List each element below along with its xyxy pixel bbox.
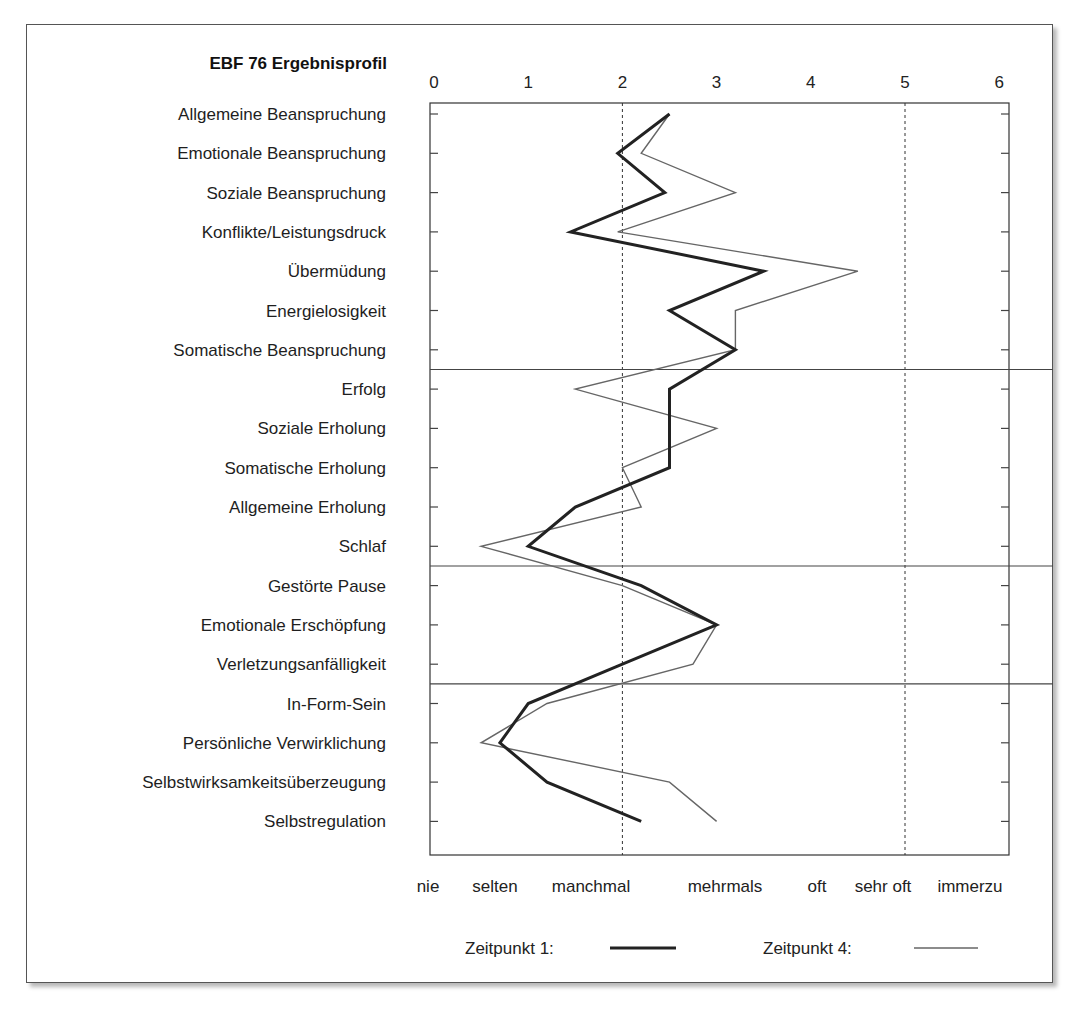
category-label: Selbstwirksamkeitsüberzeugung xyxy=(142,773,386,792)
legend-label: Zeitpunkt 4: xyxy=(763,939,852,958)
frequency-label: nie xyxy=(417,877,440,896)
category-label: Emotionale Erschöpfung xyxy=(201,616,386,635)
profile-chart: EBF 76 Ergebnisprofil 0123456 Allgemeine… xyxy=(0,0,1085,1013)
frequency-label: selten xyxy=(472,877,517,896)
category-label: Somatische Erholung xyxy=(224,459,386,478)
category-label: Verletzungsanfälligkeit xyxy=(217,655,386,674)
legend-label: Zeitpunkt 1: xyxy=(465,939,554,958)
frequency-labels: nieseltenmanchmalmehrmalsoftsehr oftimme… xyxy=(417,877,1003,896)
category-label: Soziale Beanspruchung xyxy=(206,184,386,203)
category-label: Schlaf xyxy=(339,537,387,556)
category-label: Persönliche Verwirklichung xyxy=(183,734,386,753)
x-tick-label: 2 xyxy=(618,73,627,92)
category-labels: Allgemeine BeanspruchungEmotionale Beans… xyxy=(142,105,386,831)
x-tick-label: 5 xyxy=(900,73,909,92)
x-tick-label: 4 xyxy=(806,73,815,92)
category-label: Soziale Erholung xyxy=(257,419,386,438)
frequency-label: sehr oft xyxy=(855,877,912,896)
chart-title: EBF 76 Ergebnisprofil xyxy=(209,54,387,73)
plot-area xyxy=(430,103,1053,855)
category-label: Energielosigkeit xyxy=(266,302,386,321)
category-label: Emotionale Beanspruchung xyxy=(177,144,386,163)
category-label: Selbstregulation xyxy=(264,812,386,831)
series-line-zeitpunkt-1 xyxy=(500,114,764,821)
x-tick-label: 1 xyxy=(523,73,532,92)
category-label: Übermüdung xyxy=(288,262,386,281)
x-axis-ticks: 0123456 xyxy=(429,73,1004,92)
frequency-label: immerzu xyxy=(937,877,1002,896)
category-label: In-Form-Sein xyxy=(287,695,386,714)
x-tick-label: 3 xyxy=(712,73,721,92)
legend: Zeitpunkt 1:Zeitpunkt 4: xyxy=(465,939,978,958)
category-label: Allgemeine Erholung xyxy=(229,498,386,517)
x-tick-label: 0 xyxy=(429,73,438,92)
frequency-label: oft xyxy=(808,877,827,896)
category-label: Somatische Beanspruchung xyxy=(173,341,386,360)
category-label: Erfolg xyxy=(342,380,386,399)
category-label: Konflikte/Leistungsdruck xyxy=(202,223,387,242)
plot-frame xyxy=(430,103,1009,855)
frequency-label: manchmal xyxy=(552,877,630,896)
frequency-label: mehrmals xyxy=(688,877,763,896)
x-tick-label: 6 xyxy=(994,73,1003,92)
category-label: Gestörte Pause xyxy=(268,577,386,596)
category-label: Allgemeine Beanspruchung xyxy=(178,105,386,124)
